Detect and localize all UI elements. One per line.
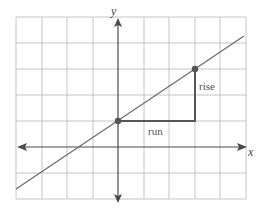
run-label: run	[148, 125, 163, 137]
y-axis-label: y	[110, 4, 117, 18]
grid	[16, 17, 246, 199]
y-axis	[114, 18, 122, 203]
rise-label: rise	[199, 80, 215, 92]
slope-diagram: x y run rise	[0, 0, 264, 213]
point-a	[115, 118, 121, 124]
x-axis-label: x	[247, 145, 254, 159]
slope-line	[16, 36, 244, 189]
x-axis	[17, 143, 247, 151]
point-b	[192, 66, 198, 72]
